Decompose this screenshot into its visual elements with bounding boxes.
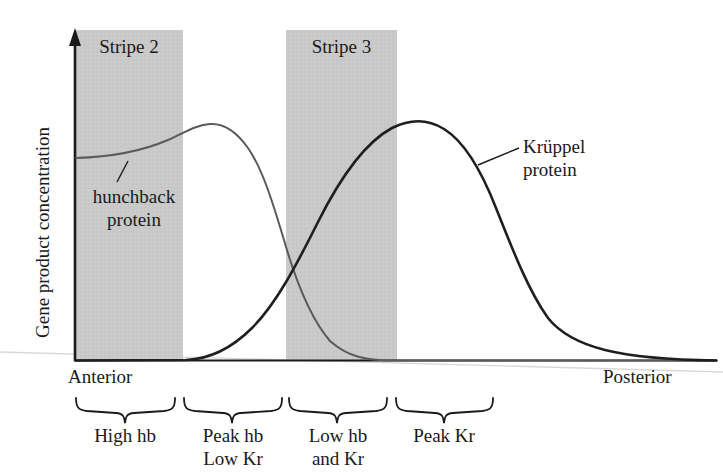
kruppel-leader-line <box>478 148 519 165</box>
bracket-label-low-hb-and-kr-line2: and Kr <box>278 448 398 469</box>
stripe-2-label: Stripe 2 <box>74 36 184 57</box>
bracket-label-peak-hb-low-kr-line1: Peak hb <box>173 425 293 446</box>
gene-expression-figure: Gene product concentration Stripe 2 Stri… <box>0 0 723 475</box>
bracket-label-peak-kr-line1: Peak Kr <box>384 425 504 446</box>
bracket-label-low-hb-and-kr-line1: Low hb <box>278 425 398 446</box>
kruppel-label-line2: protein <box>523 159 577 180</box>
bracket-label-high-hb-line1: High hb <box>65 425 185 446</box>
hunchback-label-line1: hunchback <box>72 186 196 207</box>
stripe-3-band <box>286 30 397 360</box>
anterior-label: Anterior <box>68 366 132 387</box>
posterior-label: Posterior <box>603 366 672 387</box>
bracket-label-peak-hb-low-kr-line2: Low Kr <box>173 448 293 469</box>
hunchback-label-line2: protein <box>72 209 196 230</box>
kruppel-label-line1: Krüppel <box>523 136 585 157</box>
figure-canvas <box>0 0 723 475</box>
y-axis-label: Gene product concentration <box>32 127 54 338</box>
bracket-peak-hb-low-kr <box>184 398 282 423</box>
bracket-peak-kr <box>396 398 493 423</box>
stripe-3-label: Stripe 3 <box>286 36 397 57</box>
bracket-high-hb <box>76 398 175 423</box>
bracket-low-hb-and-kr <box>289 398 387 423</box>
